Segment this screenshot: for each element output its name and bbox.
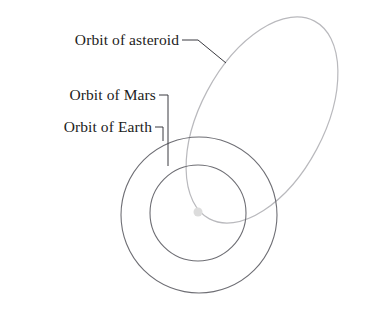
leader-line-asteroid [182, 40, 226, 63]
orbit-asteroid-ellipse [155, 0, 370, 248]
orbit-diagram-figure: Orbit of asteroid Orbit of Mars Orbit of… [0, 0, 370, 317]
leader-line-earth [155, 127, 163, 141]
orbit-diagram-svg: Orbit of asteroid Orbit of Mars Orbit of… [0, 0, 370, 317]
label-orbit-asteroid: Orbit of asteroid [75, 31, 179, 48]
sun-marker [194, 208, 203, 217]
label-orbit-earth: Orbit of Earth [64, 118, 152, 135]
label-orbit-mars: Orbit of Mars [69, 86, 156, 103]
